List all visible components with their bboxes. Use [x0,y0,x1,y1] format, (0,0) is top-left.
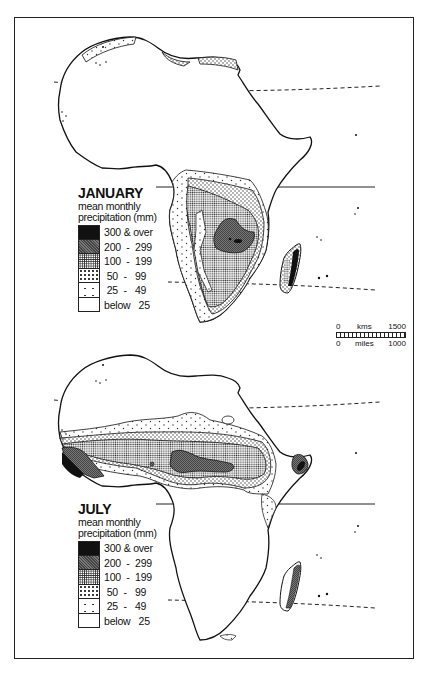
legend-row: 300 & over [78,225,188,240]
legend-title: JULY [78,502,188,517]
legend-row: 100 - 199 [78,254,188,269]
swatch-100-199 [78,254,100,269]
legend-row: 200 - 299 [78,556,188,571]
legend-row: 50 - 99 [78,269,188,284]
legend-subtitle-unit: precipitation (mm) [78,528,188,539]
swatch-300-over [78,541,100,556]
swatch-200-299 [78,556,100,571]
july-legend: JULY mean monthly precipitation (mm) 300… [78,502,188,628]
swatch-50-99 [78,269,100,284]
scale-mi-start: 0 [336,339,340,348]
swatch-25-49 [78,283,100,298]
swatch-25-49 [78,599,100,614]
scale-bar: 0 kms 1500 0 miles 1000 [336,322,406,348]
swatch-50-99 [78,585,100,600]
legend-title: JANUARY [78,186,188,201]
scale-km-start: 0 [336,322,340,331]
swatch-100-199 [78,570,100,585]
scale-km-unit: kms [357,322,372,331]
legend-row: 200 - 299 [78,240,188,255]
scale-mi-end: 1000 [388,339,406,348]
swatch-300-over [78,225,100,240]
legend-row: 300 & over [78,541,188,556]
legend-row: 25 - 49 [78,599,188,614]
legend-row: below 25 [78,298,188,313]
swatch-below-25 [78,614,100,629]
scale-mi-unit: miles [355,339,374,348]
scale-ruler [336,332,406,338]
january-legend: JANUARY mean monthly precipitation (mm) … [78,186,188,312]
swatch-200-299 [78,240,100,255]
legend-row: below 25 [78,614,188,629]
swatch-below-25 [78,298,100,313]
legend-row: 100 - 199 [78,570,188,585]
legend-row: 50 - 99 [78,585,188,600]
scale-km-end: 1500 [388,322,406,331]
legend-row: 25 - 49 [78,283,188,298]
legend-subtitle-unit: precipitation (mm) [78,212,188,223]
